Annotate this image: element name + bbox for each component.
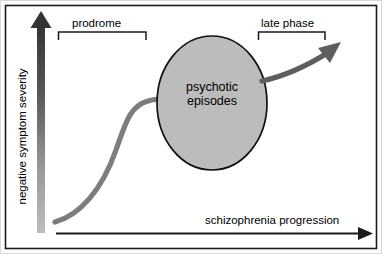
- psychotic-episodes-label-line-2: episodes: [158, 94, 266, 108]
- late-phase-label: late phase: [261, 17, 314, 30]
- late-phase-bracket: [259, 32, 326, 40]
- y-axis-label: negative symptom severity: [16, 56, 29, 216]
- prodrome-label: prodrome: [72, 17, 121, 30]
- psychotic-episodes-label-line-1: psychotic: [158, 80, 266, 94]
- y-axis-arrow: [31, 11, 52, 233]
- schizophrenia-progression-diagram: negative symptom severity schizophrenia …: [0, 0, 382, 254]
- x-axis-label: schizophrenia progression: [205, 214, 339, 227]
- psychotic-episodes-label: psychotic episodes: [158, 80, 266, 108]
- severity-trajectory-arrow: [262, 42, 341, 81]
- x-axis-arrow: [56, 227, 373, 240]
- prodrome-bracket: [59, 32, 147, 40]
